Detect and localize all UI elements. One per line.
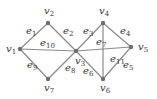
node-label-v4: v4 (99, 5, 110, 18)
graph-svg: e1e2e3e4e5e6e7e8e9e10e11v1v2v3v4v5v6v7 (0, 0, 157, 99)
node-v6 (101, 77, 105, 81)
node-label-v7: v7 (44, 82, 54, 95)
node-v1 (18, 47, 22, 51)
node-v5 (129, 45, 133, 49)
edge-label-e7: e7 (96, 36, 106, 49)
node-label-v5: v5 (138, 41, 148, 54)
edge-label-e4: e4 (120, 25, 131, 38)
node-v3 (74, 49, 78, 53)
node-v4 (101, 21, 105, 25)
edge-label-e10: e10 (40, 37, 55, 50)
edge-label-e3: e3 (83, 25, 93, 38)
graph-diagram: e1e2e3e4e5e6e7e8e9e10e11v1v2v3v4v5v6v7 (0, 0, 157, 99)
edge-label-e8: e8 (65, 62, 75, 75)
node-v2 (46, 21, 50, 25)
edge-label-e1: e1 (26, 25, 36, 38)
node-v7 (46, 77, 50, 81)
node-label-v6: v6 (100, 82, 111, 95)
edge-label-e2: e2 (63, 25, 73, 38)
node-label-v1: v1 (6, 43, 16, 56)
edge-label-e11: e11 (110, 53, 125, 66)
node-label-v3: v3 (75, 55, 85, 68)
node-label-v2: v2 (44, 5, 54, 18)
edge-label-e9: e9 (27, 59, 37, 72)
